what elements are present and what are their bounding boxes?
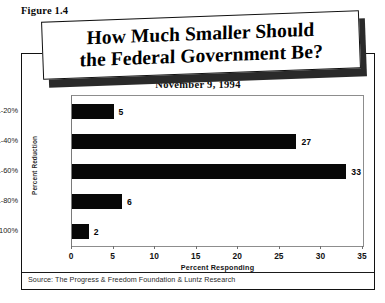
title-plaque-face: How Much Smaller Should the Federal Gove… [41, 10, 361, 80]
bar-41-60% [72, 164, 346, 179]
x-tick-mark [113, 246, 114, 249]
bar-21-40% [72, 134, 296, 149]
category-label-41-60%: 41-60% [0, 166, 18, 175]
bar-81-100% [72, 224, 89, 239]
bar-value-label: 6 [127, 197, 132, 207]
x-tick-label: 0 [69, 251, 74, 261]
x-axis-title: Percent Responding [71, 263, 364, 272]
x-tick-mark [237, 246, 238, 249]
bars-layer: 5273362 [72, 96, 363, 246]
bar-row: 33 [72, 156, 363, 186]
category-label-81-100%: 81-100% [0, 226, 18, 235]
x-tick-label: 30 [316, 251, 325, 261]
bar-1-20% [72, 104, 114, 119]
bar-61-80% [72, 194, 122, 209]
x-tick-label: 15 [191, 251, 200, 261]
bar-value-label: 2 [94, 227, 99, 237]
x-tick-mark [362, 246, 363, 249]
source-divider [22, 272, 374, 273]
bar-row: 6 [72, 186, 363, 216]
category-label-61-80%: 61-80% [0, 196, 18, 205]
x-tick-mark [154, 246, 155, 249]
plot-area: 5273362 [71, 95, 364, 247]
x-tick-mark [71, 246, 72, 249]
category-label-1-20%: 1-20% [0, 106, 18, 115]
bar-value-label: 5 [119, 107, 124, 117]
bar-row: 27 [72, 126, 363, 156]
bar-value-label: 33 [351, 167, 361, 177]
x-tick-label: 35 [357, 251, 366, 261]
chart-title-plaque: How Much Smaller Should the Federal Gove… [42, 16, 360, 74]
x-tick-label: 10 [149, 251, 158, 261]
category-label-21-40%: 21-40% [0, 136, 18, 145]
x-tick-label: 20 [233, 251, 242, 261]
x-tick-mark [196, 246, 197, 249]
chart-frame: November 9, 1994 Percent Reduction 52733… [21, 53, 375, 290]
x-tick-label: 5 [110, 251, 115, 261]
bar-row: 5 [72, 96, 363, 126]
figure-caption: Figure 1.4 [21, 5, 68, 16]
x-tick-mark [320, 246, 321, 249]
x-tick-mark [279, 246, 280, 249]
source-note: Source: The Progress & Freedom Foundatio… [28, 275, 235, 284]
bar-row: 2 [72, 216, 363, 246]
x-tick-label: 25 [274, 251, 283, 261]
bar-value-label: 27 [301, 137, 311, 147]
y-axis-title: Percent Reduction [31, 131, 38, 201]
